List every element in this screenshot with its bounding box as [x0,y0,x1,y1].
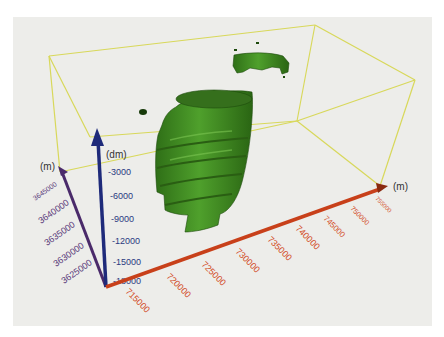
y-axis-unit: (m) [40,161,55,172]
x-tick: 730000 [234,246,262,274]
z-axis-unit: (dm) [106,149,127,160]
x-axis-unit: (m) [393,181,408,192]
y-axis: (m) 3625000 3630000 3635000 3640000 3645… [32,161,106,287]
x-tick: 720000 [165,271,193,299]
y-tick: 3635000 [42,219,76,247]
isosurface-main [156,90,253,232]
z-tick: -6000 [110,191,133,201]
isosurface-fragment [233,42,289,78]
x-tick: 750000 [349,205,371,227]
x-tick: 715000 [124,286,152,314]
z-tick: -15000 [113,257,141,267]
y-tick: 3640000 [36,197,70,225]
x-tick: 740000 [294,223,322,251]
3d-scene: (m) 3625000 3630000 3635000 3640000 3645… [0,0,444,337]
z-axis: (dm) -3000 -6000 -9000 -12000 -15000 -18… [91,128,141,287]
z-tick: -9000 [111,214,134,224]
z-tick: -3000 [108,167,131,177]
isosurface-blob [139,109,147,115]
x-axis: (m) 715000 720000 725000 730000 735000 7… [106,181,408,315]
x-tick: 735000 [266,234,294,262]
x-tick: 755000 [374,195,393,214]
z-tick: -12000 [112,236,140,246]
x-tick: 725000 [200,259,228,287]
x-tick: 745000 [322,214,348,240]
y-tick: 3645000 [32,180,58,201]
